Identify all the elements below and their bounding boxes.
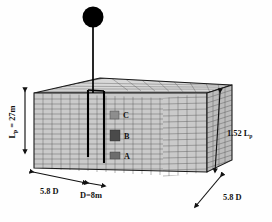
soil-block-diagram: C B A Lp = 27m 1.52 Lp 5.8 D D=8m 5.8 D [0,0,272,222]
pile-top-icon [88,90,104,91]
width-left-arrow [33,172,86,183]
block-depth-prefix: 1.52 L [227,129,250,138]
front-face-fill [34,93,207,172]
zone-label-A: A [124,152,130,161]
dimension-pile-diameter: D=8m [80,183,105,200]
dimension-width-right: 5.8 D [195,176,242,207]
pile-length-rest: = 27m [8,105,17,129]
pile-diameter-arrow [88,183,105,186]
dimension-width-left: 5.8 D [33,172,86,196]
soil-block-front-face [34,93,207,177]
zone-swatch-A [110,152,120,159]
zone-swatch-C [110,111,119,119]
zone-swatch-B [110,130,120,141]
block-depth-subscript: p [249,133,252,139]
dimension-pile-length: Lp = 27m [8,91,25,153]
pile-length-label: Lp = 27m [8,105,18,138]
zone-label-B: B [124,132,130,141]
filled-circle-mass-icon [83,7,104,28]
figure-container: C B A Lp = 27m 1.52 Lp 5.8 D D=8m 5.8 D [0,0,272,222]
width-right-label: 5.8 D [223,193,242,202]
width-right-arrow [195,176,221,207]
pile-diameter-label: D=8m [80,191,102,200]
soil-block-top-face [34,71,232,93]
zone-label-C: C [123,111,129,120]
block-depth-label: 1.52 Lp [227,129,252,139]
width-left-label: 5.8 D [40,187,59,196]
